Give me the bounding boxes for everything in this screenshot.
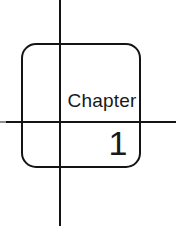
chapter-number: 1 [96,124,140,162]
slide-canvas: Chapter 1 [0,0,176,244]
vertical-guide-line [59,0,61,226]
horizontal-guide-line [0,121,176,123]
chapter-label: Chapter [64,90,140,112]
